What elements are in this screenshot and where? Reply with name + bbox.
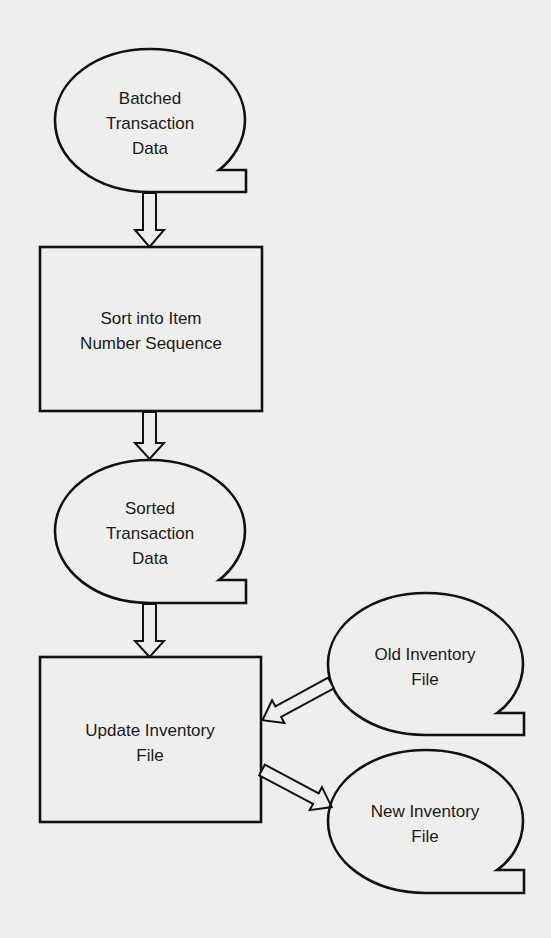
flow-arrow-down-icon: [135, 193, 164, 247]
node-update-process: Update Inventory File: [40, 657, 261, 822]
node-label-line: Sort into Item: [100, 309, 201, 328]
node-label-line: Transaction: [106, 524, 194, 543]
node-old-inventory-file: Old Inventory File: [328, 593, 524, 735]
flowchart-canvas: Batched Transaction Data Sort into Item …: [0, 0, 551, 938]
process-box: [40, 247, 262, 411]
node-sort-process: Sort into Item Number Sequence: [40, 247, 262, 411]
node-label-line: New Inventory: [371, 802, 480, 821]
node-label-line: Transaction: [106, 114, 194, 133]
stored-data-shape: [328, 593, 524, 735]
stored-data-shape: [328, 750, 524, 893]
node-label-line: Old Inventory: [374, 645, 476, 664]
node-new-inventory-file: New Inventory File: [328, 750, 524, 893]
node-label-line: Batched: [119, 89, 181, 108]
flow-arrow-down-icon: [135, 412, 164, 459]
flow-arrow-down-icon: [135, 604, 164, 657]
diagram-page: Batched Transaction Data Sort into Item …: [0, 0, 551, 938]
node-label-line: File: [411, 827, 438, 846]
node-batched-transaction-data: Batched Transaction Data: [55, 49, 246, 192]
flow-arrow-diagonal-icon: [256, 672, 337, 732]
node-sorted-transaction-data: Sorted Transaction Data: [55, 460, 246, 603]
node-label-line: Data: [132, 139, 168, 158]
node-label-line: Number Sequence: [80, 334, 222, 353]
node-label-line: File: [136, 746, 163, 765]
node-label-line: Sorted: [125, 499, 175, 518]
node-label-line: Data: [132, 549, 168, 568]
node-label-line: Update Inventory: [85, 721, 215, 740]
node-label-line: File: [411, 670, 438, 689]
flow-arrow-diagonal-icon: [256, 759, 338, 819]
